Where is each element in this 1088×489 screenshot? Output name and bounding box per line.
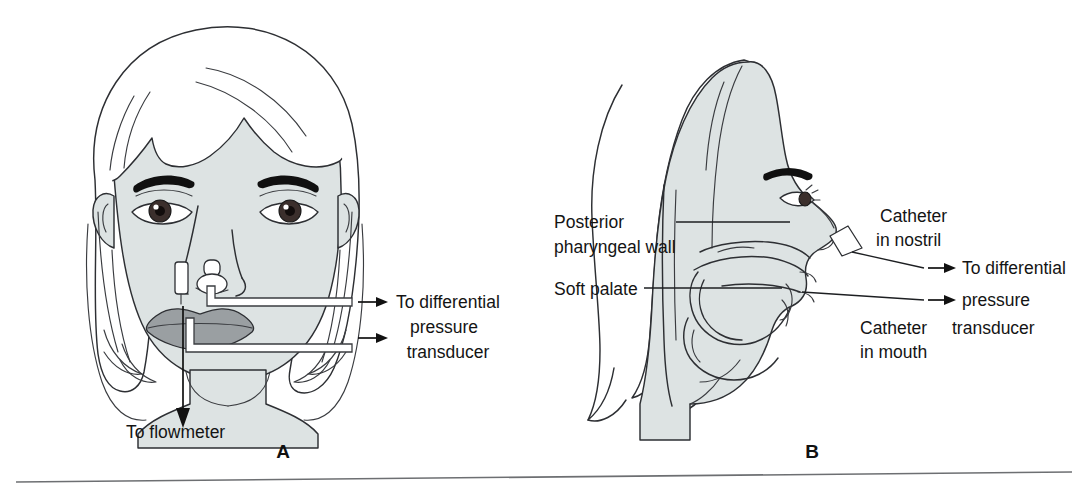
panel-b-transducer-line1: To differential bbox=[962, 258, 1066, 278]
panel-a-transducer-line3: transducer bbox=[407, 342, 490, 362]
panel-a-group: To differential pressure transducer To f… bbox=[87, 27, 500, 462]
panel-b-iris bbox=[799, 192, 811, 206]
catheter-mouth-leader bbox=[802, 292, 924, 300]
panel-b-group: Posterior pharyngeal wall Soft palate Ca… bbox=[554, 60, 1066, 462]
posterior-label-line2: pharyngeal wall bbox=[554, 237, 676, 257]
catheter-nostril-label-line1: Catheter bbox=[880, 206, 947, 226]
arrow-right-icon bbox=[376, 297, 388, 307]
soft-palate-label: Soft palate bbox=[554, 279, 638, 299]
arrow-right-icon bbox=[376, 333, 388, 343]
panel-a-letter: A bbox=[276, 441, 290, 462]
arrow-right-icon bbox=[944, 295, 956, 305]
figure-illustration: To differential pressure transducer To f… bbox=[0, 0, 1088, 489]
eye-glint-right bbox=[283, 204, 288, 209]
panel-b-letter: B bbox=[805, 441, 819, 462]
figure-bottom-rule bbox=[16, 472, 1072, 482]
panel-b-transducer-line3: transducer bbox=[952, 318, 1035, 338]
catheter-nostril-leader bbox=[852, 252, 924, 268]
panel-b-transducer-line2: pressure bbox=[962, 290, 1030, 310]
panel-a-transducer-line1: To differential bbox=[396, 292, 500, 312]
panel-a-flowmeter-label: To flowmeter bbox=[126, 422, 225, 442]
catheter-mouth-label-line2: in mouth bbox=[860, 342, 927, 362]
figure-container: To differential pressure transducer To f… bbox=[0, 0, 1088, 489]
panel-a-transducer-line2: pressure bbox=[410, 317, 478, 337]
catheter-mouth-label-line1: Catheter bbox=[860, 318, 927, 338]
posterior-label-line1: Posterior bbox=[554, 212, 624, 232]
catheter-nostril-label-line2: in nostril bbox=[876, 230, 941, 250]
arrow-right-icon bbox=[944, 263, 956, 273]
nostril-plug-left bbox=[175, 262, 188, 294]
eye-glint-left bbox=[153, 204, 158, 209]
